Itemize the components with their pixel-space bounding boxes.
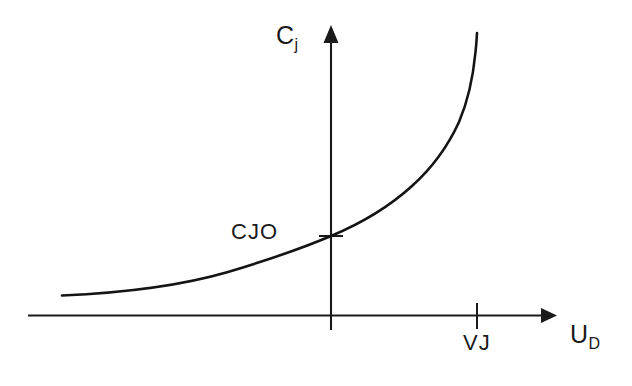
x-axis-label-subscript: D — [589, 335, 601, 352]
y-axis-label-subscript: j — [295, 36, 299, 53]
x-axis-arrow-icon — [541, 308, 557, 323]
y-axis-arrow-icon — [324, 25, 339, 43]
y-axis-label-main: C — [276, 21, 295, 49]
cjo-label: CJO — [231, 221, 278, 243]
y-axis-label: Cj — [276, 23, 298, 53]
figure-canvas: Cj UD CJO VJ — [0, 0, 632, 386]
capacitance-voltage-plot — [0, 0, 632, 386]
cj-curve — [62, 33, 477, 296]
x-axis-label: UD — [570, 322, 600, 352]
x-axis-label-main: U — [570, 320, 589, 348]
vj-label: VJ — [463, 332, 491, 354]
